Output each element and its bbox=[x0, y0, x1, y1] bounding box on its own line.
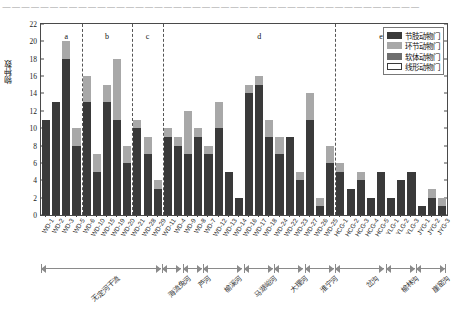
plot-frame: 0246810121416182022abcde 节肢动物门环节动物门软体动物门… bbox=[40, 23, 448, 216]
bar-WD-24 bbox=[275, 137, 283, 215]
bar-segment-环节动物门 bbox=[164, 128, 172, 137]
bar-segment-节肢动物门 bbox=[296, 180, 304, 215]
bar-segment-环节动物门 bbox=[123, 146, 131, 163]
bar-HCG-4 bbox=[367, 198, 375, 215]
group-range-line bbox=[41, 268, 162, 269]
bar-YLG-2 bbox=[397, 180, 405, 215]
x-tick-mark bbox=[350, 214, 351, 217]
section-divider bbox=[82, 24, 83, 215]
y-tick-label: 16 bbox=[30, 72, 42, 81]
legend-swatch bbox=[387, 53, 402, 60]
x-tick-mark bbox=[65, 214, 66, 217]
bar-segment-环节动物门 bbox=[103, 85, 111, 102]
x-tick-mark bbox=[339, 214, 340, 217]
bar-segment-环节动物门 bbox=[265, 120, 273, 137]
x-tick-mark bbox=[126, 214, 127, 217]
legend-swatch bbox=[387, 42, 402, 49]
bar-segment-节肢动物门 bbox=[286, 137, 294, 215]
x-tick-mark bbox=[370, 214, 371, 217]
bar-WD-9 bbox=[184, 111, 192, 215]
bar-segment-节肢动物门 bbox=[72, 146, 80, 215]
bar-segment-环节动物门 bbox=[72, 128, 80, 145]
group-label-榆溪河: 榆溪河 bbox=[221, 273, 243, 294]
x-tick-mark bbox=[116, 214, 117, 217]
y-tick-mark-right bbox=[444, 24, 447, 25]
group-arrow-right bbox=[237, 265, 242, 273]
bar-WD-28 bbox=[144, 137, 152, 215]
bar-segment-环节动物门 bbox=[275, 137, 283, 154]
bar-segment-节肢动物门 bbox=[103, 102, 111, 215]
bar-WD-11 bbox=[164, 128, 172, 215]
bar-HCG-1 bbox=[336, 163, 344, 215]
x-tick-mark bbox=[390, 214, 391, 217]
bar-WD-2 bbox=[52, 102, 60, 215]
bar-segment-节肢动物门 bbox=[154, 189, 162, 215]
bar-segment-环节动物门 bbox=[438, 198, 446, 207]
bar-WD-12 bbox=[215, 102, 223, 215]
legend-label: 环节动物门 bbox=[405, 40, 440, 51]
chart-legend: 节肢动物门环节动物门软体动物门线形动物门 bbox=[383, 27, 444, 75]
bar-segment-环节动物门 bbox=[93, 154, 101, 171]
bar-segment-节肢动物门 bbox=[275, 154, 283, 215]
x-tick-mark bbox=[177, 214, 178, 217]
group-arrow-right bbox=[197, 265, 202, 273]
y-tick-label: 2 bbox=[33, 193, 41, 202]
section-divider bbox=[163, 24, 164, 215]
bar-segment-节肢动物门 bbox=[336, 172, 344, 215]
x-tick-mark bbox=[187, 214, 188, 217]
x-axis-tick-labels: WD-1WD-2WD-3WD-5WD-6WD-10WD-15WD-19WD-20… bbox=[40, 217, 448, 261]
bar-segment-节肢动物门 bbox=[113, 120, 121, 216]
bar-segment-节肢动物门 bbox=[357, 180, 365, 215]
bar-WD-25 bbox=[326, 146, 334, 215]
bar-segment-节肢动物门 bbox=[204, 154, 212, 215]
x-tick-mark bbox=[258, 214, 259, 217]
section-letter-b: b bbox=[105, 32, 109, 41]
bar-segment-环节动物门 bbox=[255, 76, 263, 85]
y-tick-mark bbox=[41, 58, 44, 59]
bar-segment-节肢动物门 bbox=[407, 172, 415, 215]
legend-label: 线形动物门 bbox=[405, 61, 440, 72]
bar-WD-15 bbox=[103, 85, 111, 215]
bar-segment-节肢动物门 bbox=[62, 59, 70, 215]
group-arrow-right bbox=[268, 265, 273, 273]
group-arrow-right bbox=[329, 265, 334, 273]
group-boundary-tick bbox=[386, 264, 387, 273]
bar-segment-环节动物门 bbox=[357, 172, 365, 181]
bar-WD-13 bbox=[225, 172, 233, 215]
x-tick-mark bbox=[309, 214, 310, 217]
bar-WD-20 bbox=[123, 146, 131, 215]
bar-WD-19 bbox=[113, 59, 121, 215]
bar-WD-6 bbox=[83, 76, 91, 215]
group-axis-labels: 无定河干流海流兔河芦河榆溪河马湖峪河大理河淮宁河岔沟榆林沟崖窑沟 bbox=[40, 273, 448, 310]
x-tick-mark bbox=[76, 214, 77, 217]
bar-segment-节肢动物门 bbox=[164, 137, 172, 215]
group-arrow-right bbox=[176, 265, 181, 273]
group-label-海流兔河: 海流兔河 bbox=[165, 273, 192, 299]
bar-YLG-3 bbox=[407, 172, 415, 215]
bar-segment-环节动物门 bbox=[62, 41, 70, 58]
group-boundary-tick bbox=[335, 264, 336, 273]
bar-segment-环节动物门 bbox=[316, 198, 324, 207]
page-top-text: ————————————————————————————————————————… bbox=[0, 0, 466, 14]
bar-WD-5 bbox=[72, 128, 80, 215]
bar-WD-23 bbox=[296, 172, 304, 215]
y-tick-mark-right bbox=[444, 145, 447, 146]
y-tick-mark bbox=[41, 76, 44, 77]
bar-WD-10 bbox=[93, 154, 101, 215]
bar-WD-3 bbox=[62, 41, 70, 215]
bar-segment-环节动物门 bbox=[194, 128, 202, 137]
bar-segment-节肢动物门 bbox=[93, 172, 101, 215]
y-tick-mark-right bbox=[444, 93, 447, 94]
bar-WD-8 bbox=[194, 128, 202, 215]
bar-segment-环节动物门 bbox=[184, 111, 192, 154]
legend-item-软体动物门: 软体动物门 bbox=[387, 51, 440, 62]
bar-segment-节肢动物门 bbox=[235, 198, 243, 215]
bar-WD-4 bbox=[174, 137, 182, 215]
group-boundary-tick bbox=[162, 264, 163, 273]
bar-HCG-5 bbox=[377, 172, 385, 215]
bar-segment-节肢动物门 bbox=[428, 198, 436, 215]
x-tick-mark bbox=[147, 214, 148, 217]
y-tick-label: 20 bbox=[30, 37, 42, 46]
bar-segment-节肢动物门 bbox=[133, 128, 141, 215]
y-tick-label: 18 bbox=[30, 54, 42, 63]
